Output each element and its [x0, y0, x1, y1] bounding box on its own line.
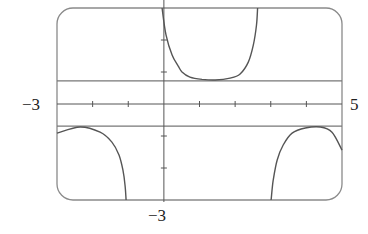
- y-min-label: −3: [148, 207, 166, 224]
- lower-left-branch-curve: [57, 127, 126, 200]
- upper-branch-curve: [162, 8, 258, 80]
- x-min-label: −3: [22, 96, 40, 113]
- x-max-label: 5: [350, 96, 359, 113]
- lower-right-branch-curve: [271, 127, 342, 200]
- graph-window: [0, 0, 368, 234]
- coordinate-axes: [57, 0, 342, 202]
